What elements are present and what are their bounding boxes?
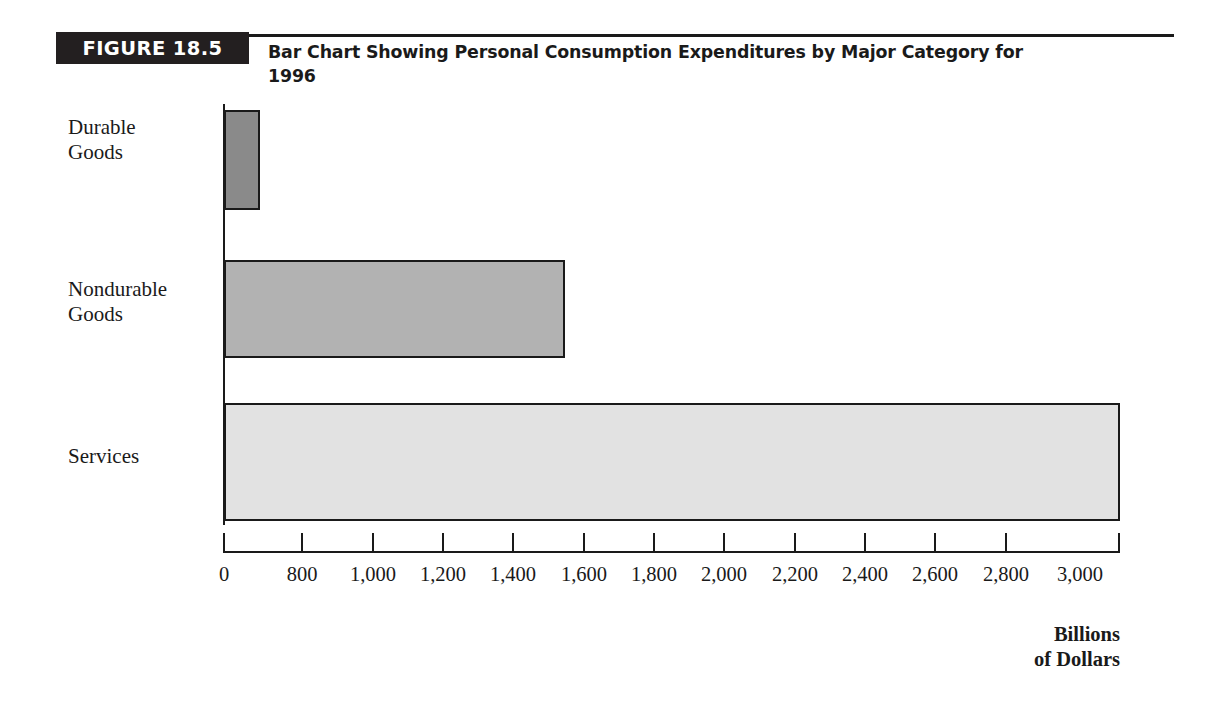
x-axis-tick-2200 [794, 533, 796, 551]
x-axis-tick-1600 [583, 533, 585, 551]
x-tick-label-2800: 2,800 [983, 563, 1029, 586]
x-axis-tick-800 [301, 533, 303, 551]
x-axis-tick-1000 [372, 533, 374, 551]
bar-durable-goods [224, 110, 260, 210]
x-axis-tick-2800 [1005, 533, 1007, 551]
x-tick-label-1200: 1,200 [420, 563, 466, 586]
x-axis-tick-origin [223, 533, 225, 551]
x-axis-line [223, 551, 1120, 553]
x-axis-tick-3000 [1118, 533, 1120, 551]
x-tick-label-2600: 2,600 [912, 563, 958, 586]
x-tick-label-1000: 1,000 [350, 563, 396, 586]
figure-container: FIGURE 18.5 Bar Chart Showing Personal C… [0, 0, 1225, 711]
x-tick-label-2400: 2,400 [842, 563, 888, 586]
x-axis-tick-1200 [442, 533, 444, 551]
bar-services [224, 403, 1120, 521]
x-tick-label-1800: 1,800 [631, 563, 677, 586]
x-tick-label-1600: 1,600 [561, 563, 607, 586]
x-axis-tick-1400 [512, 533, 514, 551]
bar-nondurable-goods [224, 260, 565, 358]
category-label-nondurable-goods: Nondurable Goods [68, 277, 205, 327]
x-axis-unit-label: Billions of Dollars [940, 622, 1120, 672]
x-tick-label-3000: 3,000 [1057, 563, 1103, 586]
x-axis-tick-2000 [723, 533, 725, 551]
x-tick-label-800: 800 [287, 563, 318, 586]
x-tick-label-1400: 1,400 [490, 563, 536, 586]
x-tick-label-0: 0 [219, 563, 229, 586]
category-label-durable-goods: Durable Goods [68, 115, 205, 165]
x-tick-label-2000: 2,000 [701, 563, 747, 586]
x-tick-label-2200: 2,200 [772, 563, 818, 586]
bar-chart-plot-area: Durable Goods Nondurable Goods Services … [0, 0, 1225, 711]
x-axis-tick-2400 [864, 533, 866, 551]
category-label-services: Services [68, 444, 205, 469]
x-axis-tick-2600 [934, 533, 936, 551]
x-axis-tick-1800 [653, 533, 655, 551]
